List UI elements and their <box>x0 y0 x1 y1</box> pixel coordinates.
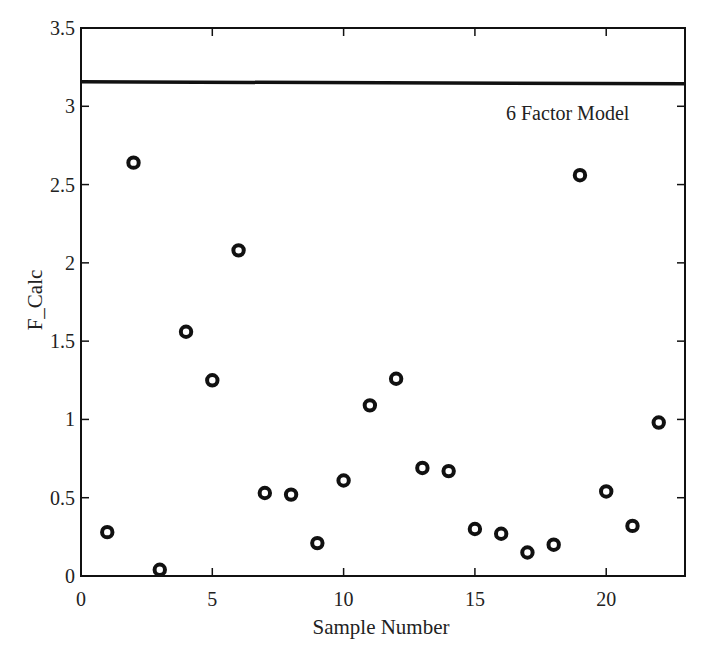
annotation-6-factor-model: 6 Factor Model <box>506 102 630 124</box>
data-point <box>155 565 165 575</box>
y-tick-label: 2 <box>65 252 75 274</box>
data-point <box>391 374 401 384</box>
data-point <box>417 463 427 473</box>
x-axis-title: Sample Number <box>312 615 449 639</box>
data-point <box>312 538 322 548</box>
x-tick-label: 20 <box>596 588 616 610</box>
data-point <box>443 466 453 476</box>
data-point <box>548 539 558 549</box>
x-tick-label: 0 <box>76 588 86 610</box>
y-tick-label: 2.5 <box>50 174 75 196</box>
reference-line <box>81 82 685 84</box>
y-tick-label: 0 <box>65 565 75 587</box>
data-point <box>522 547 532 557</box>
y-tick-label: 3 <box>65 95 75 117</box>
y-tick-label: 0.5 <box>50 487 75 509</box>
data-point <box>365 400 375 410</box>
data-point <box>654 417 664 427</box>
data-point <box>207 375 217 385</box>
data-point <box>181 327 191 337</box>
data-point <box>601 486 611 496</box>
data-point <box>338 475 348 485</box>
data-point <box>470 524 480 534</box>
data-point <box>496 529 506 539</box>
scatter-chart: 0510152000.511.522.533.5 6 Factor Model … <box>0 0 705 653</box>
data-point <box>128 157 138 167</box>
data-point <box>286 489 296 499</box>
y-tick-label: 3.5 <box>50 17 75 39</box>
x-tick-label: 10 <box>334 588 354 610</box>
x-tick-label: 5 <box>207 588 217 610</box>
data-point <box>627 521 637 531</box>
data-points <box>102 157 664 574</box>
data-point <box>102 527 112 537</box>
y-tick-label: 1 <box>65 408 75 430</box>
threshold-line <box>81 82 685 84</box>
data-point <box>233 245 243 255</box>
data-point <box>260 488 270 498</box>
x-tick-label: 15 <box>465 588 485 610</box>
y-axis-title: F_Calc <box>23 270 47 331</box>
y-tick-label: 1.5 <box>50 330 75 352</box>
data-point <box>575 170 585 180</box>
